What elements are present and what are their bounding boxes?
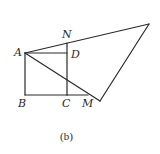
label-d: D — [70, 48, 80, 61]
figure-caption: (b) — [60, 130, 73, 143]
label-m: M — [81, 97, 94, 110]
segment-top-lower-vertex — [100, 24, 149, 101]
label-n: N — [61, 28, 72, 41]
segment-a-top-vertex — [25, 24, 149, 53]
geometry-figure: N A D B C M (b) — [0, 0, 160, 154]
segment-a-lower-vertex — [25, 53, 100, 101]
label-c: C — [62, 97, 71, 110]
label-b: B — [17, 97, 26, 110]
label-a: A — [13, 46, 22, 59]
diagram-canvas: N A D B C M (b) — [0, 0, 160, 154]
